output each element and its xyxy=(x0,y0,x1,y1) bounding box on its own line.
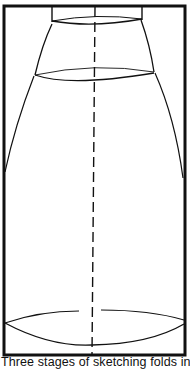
fold-sketch-diagram xyxy=(0,0,190,369)
figure-caption: Three stages of sketching folds in xyxy=(1,355,190,369)
top-ellipse-back xyxy=(52,16,142,21)
upper-right-side xyxy=(141,20,154,72)
lower-right-side xyxy=(155,73,183,178)
bottom-ellipse-back-right xyxy=(101,310,184,320)
bottom-ellipse-back-left xyxy=(5,311,79,323)
bottom-ellipse-front xyxy=(5,323,184,345)
top-ellipse-front xyxy=(52,19,142,24)
lower-left-side xyxy=(5,76,34,172)
center-dashed-line xyxy=(92,7,95,355)
upper-left-side xyxy=(35,24,52,75)
